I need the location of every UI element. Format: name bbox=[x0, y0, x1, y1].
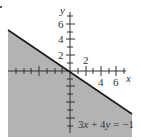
x-axis-label: x bbox=[125, 72, 131, 84]
y-axis-label: y bbox=[59, 4, 65, 16]
x-tick-label-2: 2 bbox=[83, 54, 89, 66]
y-tick-label-4: 4 bbox=[58, 33, 64, 45]
equation-label: 3x + 4y = −1 bbox=[78, 118, 134, 130]
y-tick-label-2: 2 bbox=[58, 49, 64, 61]
x-tick-label-6: 6 bbox=[113, 76, 119, 88]
inequality-graph: y x 6 4 2 2 4 6 3x + 4y = −1 bbox=[0, 0, 141, 140]
y-tick-label-6: 6 bbox=[58, 18, 64, 30]
x-tick-label-4: 4 bbox=[98, 76, 104, 88]
